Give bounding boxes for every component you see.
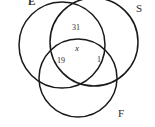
region-value-e-and-s: 31 <box>72 24 80 32</box>
region-value-s-and-f: 1 <box>97 56 101 64</box>
venn-circles-canvas <box>0 0 155 127</box>
set-label-e: E <box>28 0 35 7</box>
set-label-f: F <box>118 108 124 119</box>
venn-diagram: E S F 31 x 19 1 <box>0 0 155 127</box>
region-value-e-and-f: 19 <box>57 57 65 65</box>
venn-circle-e <box>19 2 105 88</box>
region-value-all-three: x <box>75 44 79 53</box>
set-label-s: S <box>136 3 142 14</box>
